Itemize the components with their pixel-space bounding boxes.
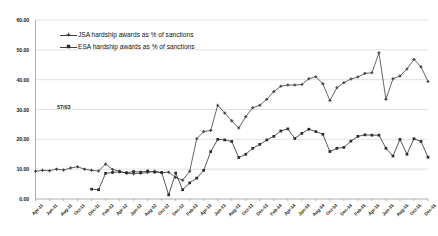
data-point-marker — [336, 147, 339, 150]
data-point-marker — [370, 71, 373, 74]
data-point-marker — [272, 135, 275, 138]
data-point-marker — [244, 153, 247, 156]
cross-icon — [66, 32, 71, 37]
data-point-marker — [188, 182, 191, 185]
data-series-layer — [34, 51, 430, 196]
data-point-marker — [167, 193, 170, 196]
data-point-marker — [406, 153, 409, 156]
data-point-marker — [125, 171, 128, 174]
chart-legend: JSA hardship awards as % of sanctions ES… — [60, 29, 195, 53]
chart-annotation: 57/03 — [57, 104, 71, 110]
legend-label-esa: ESA hardship awards as % of sanctions — [78, 44, 195, 51]
legend-marker-cross-icon — [60, 31, 77, 39]
data-point-marker — [399, 138, 402, 141]
data-point-marker — [202, 169, 205, 172]
data-point-marker — [371, 134, 374, 137]
data-point-marker — [385, 147, 388, 150]
data-point-marker — [427, 80, 430, 83]
data-point-marker — [286, 128, 289, 131]
data-point-marker — [293, 84, 296, 87]
legend-item-jsa: JSA hardship awards as % of sanctions — [60, 29, 195, 41]
data-point-marker — [104, 172, 107, 175]
data-point-marker — [350, 140, 353, 143]
data-point-marker — [364, 134, 367, 137]
data-point-marker — [427, 156, 430, 159]
data-point-marker — [392, 155, 395, 158]
data-point-marker — [307, 128, 310, 131]
data-point-marker — [160, 171, 163, 174]
data-point-marker — [174, 172, 177, 175]
legend-label-jsa: JSA hardship awards as % of sanctions — [78, 32, 193, 39]
data-point-marker — [363, 72, 366, 75]
data-point-marker — [216, 138, 219, 141]
data-point-marker — [378, 134, 381, 137]
data-point-marker — [349, 78, 352, 81]
data-point-marker — [293, 137, 296, 140]
data-point-marker — [132, 170, 135, 173]
data-point-marker — [286, 84, 289, 87]
data-point-marker — [356, 75, 359, 78]
data-point-marker — [139, 171, 142, 174]
y-axis-tick-label: 0.00 — [3, 196, 29, 202]
data-point-marker — [55, 168, 58, 171]
data-point-marker — [209, 129, 212, 132]
series-line — [92, 129, 428, 195]
data-point-marker — [34, 170, 37, 173]
y-axis-tick-label: 40.00 — [3, 77, 29, 83]
data-point-marker — [328, 99, 331, 102]
data-point-marker — [97, 188, 100, 191]
data-point-marker — [153, 171, 156, 174]
line-chart: 0.0010.0020.0030.0040.0050.0060.00 Apr-1… — [0, 0, 438, 236]
legend-marker-square-icon — [60, 43, 77, 51]
y-axis-tick-label: 60.00 — [3, 17, 29, 23]
data-point-marker — [111, 171, 114, 174]
y-axis-tick-label: 50.00 — [3, 47, 29, 53]
data-point-marker — [181, 188, 184, 191]
data-point-marker — [48, 169, 51, 172]
series-esa — [90, 128, 429, 197]
y-axis-tick-label: 10.00 — [3, 166, 29, 172]
data-point-marker — [357, 135, 360, 138]
data-point-marker — [76, 165, 79, 168]
data-point-marker — [146, 170, 149, 173]
legend-item-esa: ESA hardship awards as % of sanctions — [60, 41, 195, 53]
series-jsa — [34, 51, 430, 181]
data-point-marker — [195, 177, 198, 180]
data-point-marker — [258, 143, 261, 146]
data-point-marker — [300, 132, 303, 135]
data-point-marker — [223, 139, 226, 142]
data-point-marker — [322, 133, 325, 136]
data-point-marker — [329, 150, 332, 153]
data-point-marker — [413, 137, 416, 140]
data-point-marker — [377, 51, 380, 54]
data-point-marker — [83, 168, 86, 171]
data-point-marker — [209, 150, 212, 153]
data-point-marker — [384, 98, 387, 101]
data-point-marker — [420, 140, 423, 143]
data-point-marker — [265, 139, 268, 142]
square-icon — [66, 44, 71, 49]
data-point-marker — [315, 130, 318, 133]
data-point-marker — [118, 171, 121, 174]
data-point-marker — [237, 156, 240, 159]
y-axis-tick-label: 30.00 — [3, 107, 29, 113]
data-point-marker — [230, 140, 233, 143]
data-point-marker — [343, 146, 346, 149]
y-axis-tick-label: 20.00 — [3, 136, 29, 142]
data-point-marker — [251, 147, 254, 150]
data-point-marker — [279, 130, 282, 133]
data-point-marker — [90, 188, 93, 191]
series-line — [36, 53, 429, 180]
